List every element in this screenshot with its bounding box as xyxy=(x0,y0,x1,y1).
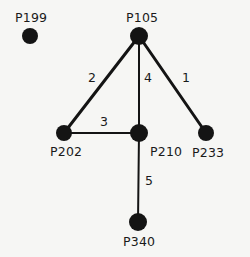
graph-node[interactable] xyxy=(198,125,214,141)
graph-node[interactable] xyxy=(130,124,148,142)
graph-edge xyxy=(138,133,139,222)
node-label-p233: P233 xyxy=(192,147,224,160)
edge-weight-label: 1 xyxy=(182,72,190,85)
edge-weight-label: 2 xyxy=(88,72,96,85)
graph-node[interactable] xyxy=(130,27,148,45)
edge-weight-label: 5 xyxy=(145,175,153,188)
graph-node[interactable] xyxy=(56,125,72,141)
graph-node[interactable] xyxy=(22,28,38,44)
graph-svg-layer xyxy=(0,0,250,257)
node-label-p105: P105 xyxy=(0,12,250,25)
node-label-p202: P202 xyxy=(50,146,82,159)
node-label-p340: P340 xyxy=(123,236,155,249)
nodes-group xyxy=(22,27,214,231)
edge-weight-label: 3 xyxy=(100,116,108,129)
graph-diagram-canvas: 24135P199P105P202P210P233P340 xyxy=(0,0,250,257)
node-label-p210: P210 xyxy=(150,146,182,159)
graph-node[interactable] xyxy=(129,213,147,231)
edge-weight-label: 4 xyxy=(144,72,152,85)
